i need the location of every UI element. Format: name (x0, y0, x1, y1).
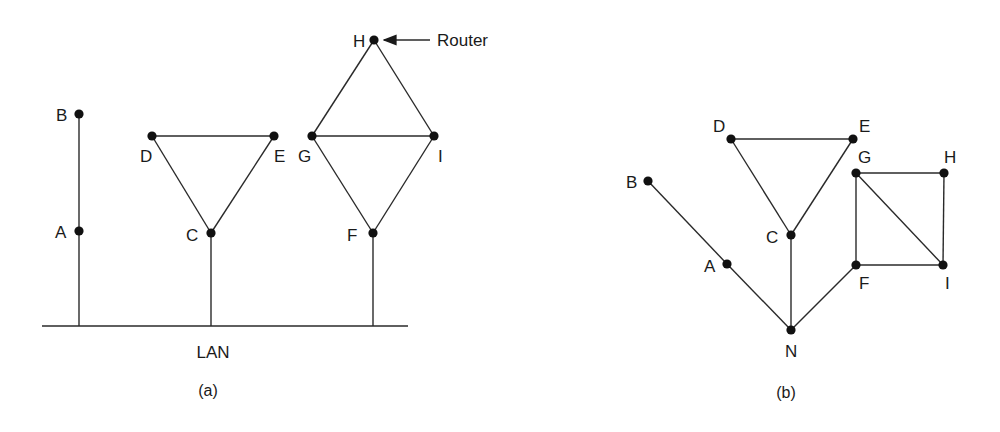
node-h (369, 35, 378, 44)
node-label-d: D (140, 147, 152, 166)
node-label-e: E (274, 147, 285, 166)
node-label-e: E (859, 117, 870, 136)
node-label-h: H (944, 148, 956, 167)
edge-h-g (312, 40, 374, 136)
node-e (848, 134, 857, 143)
router-annotation: Router (437, 31, 488, 50)
edge-d-c (731, 139, 791, 235)
edge-g-i (856, 173, 943, 265)
caption-a: (a) (198, 382, 218, 399)
node-label-f: F (859, 274, 869, 293)
node-label-g: G (298, 147, 311, 166)
edge-a-n (727, 264, 791, 330)
node-b (74, 109, 83, 118)
node-label-b: B (56, 106, 67, 125)
node-a (722, 259, 731, 268)
node-i (429, 131, 438, 140)
node-d (147, 131, 156, 140)
edge-h-i (374, 40, 434, 136)
edge-d-c (152, 136, 211, 233)
edge-e-c (211, 136, 274, 233)
node-label-a: A (704, 257, 716, 276)
node-label-f: F (347, 226, 357, 245)
node-h (939, 168, 948, 177)
edge-h-i (943, 173, 944, 265)
node-d (726, 134, 735, 143)
edge-b-a (648, 181, 727, 264)
caption-b: (b) (776, 384, 796, 401)
node-label-c: C (186, 226, 198, 245)
node-label-d: D (713, 117, 725, 136)
node-f (368, 228, 377, 237)
panel-b-graph-model: DECBANGHFI(b) (626, 117, 956, 401)
edge-i-f (373, 136, 434, 233)
edge-f-n (791, 265, 856, 330)
node-label-c: C (766, 228, 778, 247)
node-label-h: H (353, 32, 365, 51)
node-label-n: N (785, 342, 797, 361)
node-label-i: I (945, 274, 950, 293)
node-g (851, 168, 860, 177)
edge-g-f (312, 136, 373, 233)
node-c (206, 228, 215, 237)
node-i (938, 260, 947, 269)
edge-e-c (791, 139, 853, 235)
node-n (786, 325, 795, 334)
node-e (269, 131, 278, 140)
lan-label: LAN (196, 343, 229, 362)
node-c (786, 230, 795, 239)
node-a (74, 226, 83, 235)
network-diagram: LANBADECHGIFRouter(a) DECBANGHFI(b) (0, 0, 1000, 432)
node-label-a: A (55, 223, 67, 242)
panel-a-lan-graph: LANBADECHGIFRouter(a) (42, 31, 488, 399)
node-f (851, 260, 860, 269)
node-b (643, 176, 652, 185)
node-label-i: I (438, 147, 443, 166)
node-label-g: G (858, 148, 871, 167)
node-label-b: B (626, 173, 637, 192)
node-g (307, 131, 316, 140)
